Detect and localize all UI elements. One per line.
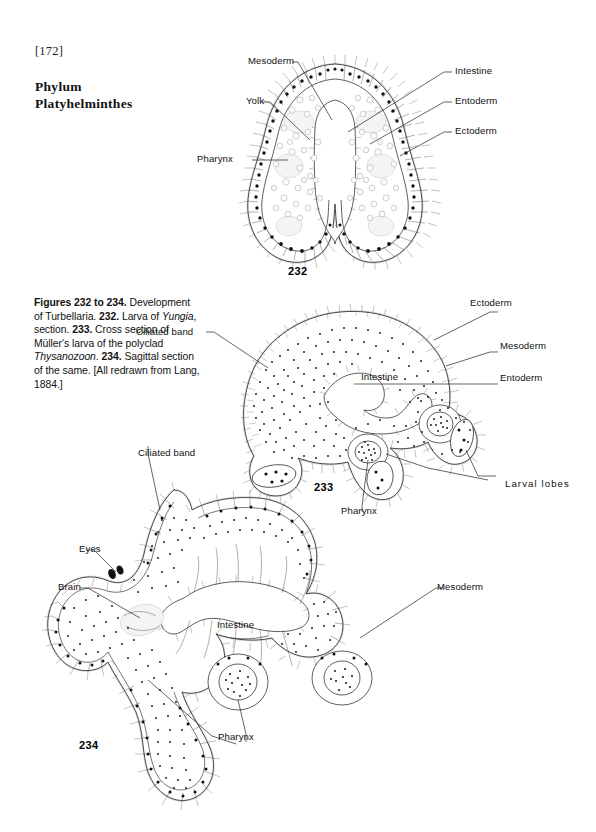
- figure-234-label-intestine: Intestine: [217, 619, 254, 630]
- book-page: [172] Phylum Platyhelminthes: [0, 0, 596, 832]
- figure-233-label-larval-lobes: Larval lobes: [505, 478, 570, 489]
- figure-caption: Figures 232 to 234. Development of Turbe…: [34, 296, 200, 391]
- figure-234-illustration: [24, 468, 494, 828]
- caption-num-233: 233.: [72, 324, 92, 335]
- figure-232-label-yolk: Yolk: [246, 95, 264, 106]
- figure-234-label-mesoderm: Mesoderm: [437, 581, 483, 592]
- figure-234-number: 234: [79, 739, 99, 751]
- figure-234-label-eyes: Eyes: [79, 543, 101, 554]
- pharynx-234: [208, 654, 268, 710]
- figure-233-label-ectoderm: Ectoderm: [470, 297, 512, 308]
- figure-233-label-entoderm: Entoderm: [500, 372, 542, 383]
- caption-genus-yungia: Yungia: [162, 311, 194, 322]
- caption-figure-range: Figures 232 to 234.: [34, 297, 127, 308]
- page-title: Phylum Platyhelminthes: [35, 78, 133, 112]
- page-folio: [172]: [35, 44, 63, 59]
- figure-232-number: 232: [288, 265, 308, 277]
- figure-234-label-brain: Brain: [58, 581, 81, 592]
- page-title-line-1: Phylum: [35, 78, 133, 95]
- figure-232-label-intestine: Intestine: [455, 65, 492, 76]
- figure-234-label-pharynx: Pharynx: [218, 731, 254, 742]
- caption-genus-thysanozoon: Thysanozoon: [34, 351, 96, 362]
- figure-233-label-mesoderm: Mesoderm: [500, 340, 546, 351]
- figure-232-label-entoderm: Entoderm: [455, 95, 497, 106]
- figure-232-illustration: [200, 48, 530, 283]
- page-title-line-2: Platyhelminthes: [35, 95, 133, 112]
- figure-232-label-mesoderm: Mesoderm: [248, 55, 294, 66]
- figure-232-label-ectoderm: Ectoderm: [455, 125, 497, 136]
- caption-num-234: 234.: [102, 351, 122, 362]
- figure-232-label-pharynx: Pharynx: [197, 153, 233, 164]
- caption-num-232: 232.: [99, 311, 119, 322]
- figure-234-label-ciliated-band: Ciliated band: [138, 447, 195, 458]
- figure-233-label-ciliated-band: Ciliated band: [136, 326, 193, 337]
- eyes-234: [107, 565, 125, 581]
- figure-233-label-intestine: Intestine: [361, 371, 398, 382]
- caption-text-2: Larva of: [119, 311, 162, 322]
